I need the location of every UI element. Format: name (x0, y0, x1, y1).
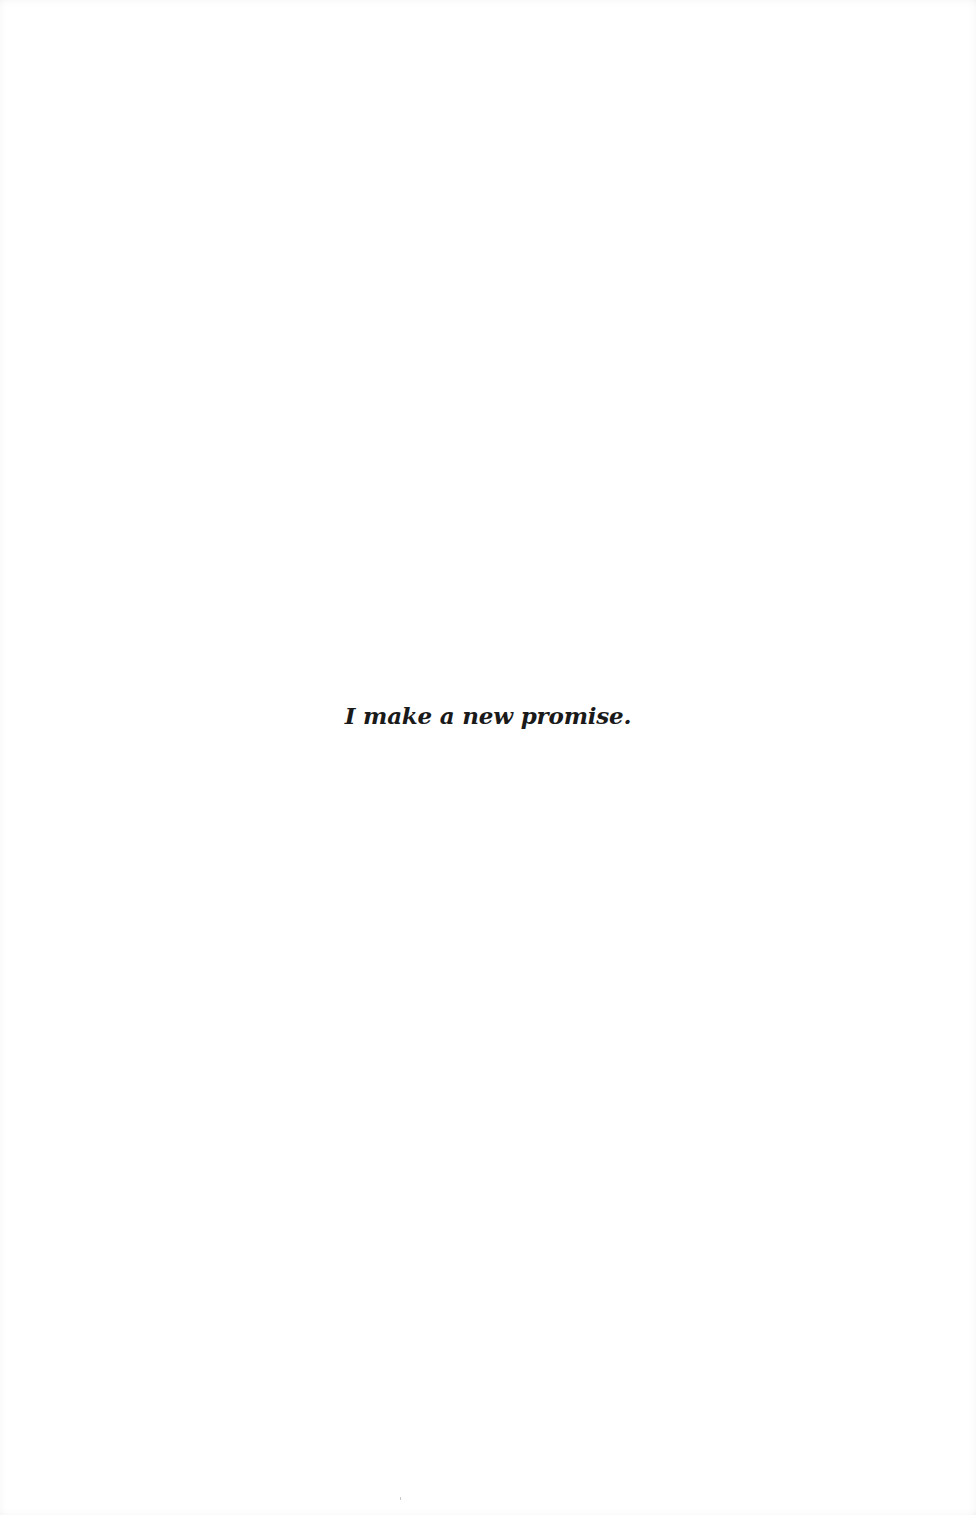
book-page: I make a new promise. (0, 0, 976, 1515)
page-text-line: I make a new promise. (0, 698, 976, 734)
scan-speck (400, 1497, 401, 1500)
